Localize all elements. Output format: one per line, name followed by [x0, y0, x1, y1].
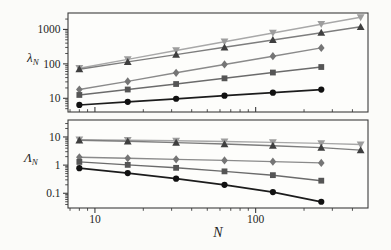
scaling-log-log-chart: 1010010000.111010100: [0, 0, 391, 250]
lambda-subscript: N: [33, 57, 39, 67]
square-marker: [222, 75, 228, 81]
circle-marker: [318, 199, 324, 205]
circle-marker: [318, 86, 324, 92]
circle-marker: [270, 189, 276, 195]
y-tick-label-top: 1000: [38, 23, 61, 35]
circle-marker: [221, 182, 227, 188]
figure: 1010010000.111010100 λN ΛN N: [0, 0, 391, 250]
y-tick-label-bottom: 1: [55, 159, 61, 171]
x-tick-label: 100: [247, 213, 265, 225]
circle-marker: [270, 90, 276, 96]
circle-marker: [173, 96, 179, 102]
circle-marker: [125, 99, 131, 105]
square-marker: [76, 92, 82, 98]
capital-lambda-symbol: Λ: [24, 150, 32, 165]
circle-marker: [76, 165, 82, 171]
bottom-y-axis-label: ΛN: [24, 151, 38, 167]
top-y-axis-label: λN: [27, 51, 39, 67]
y-tick-label-bottom: 10: [49, 131, 61, 143]
y-tick-label-bottom: 0.1: [46, 187, 61, 199]
square-marker: [125, 87, 131, 93]
x-axis-label: N: [68, 226, 368, 240]
y-tick-label-top: 10: [49, 92, 61, 104]
square-marker: [270, 172, 276, 178]
square-marker: [222, 168, 228, 174]
y-tick-label-top: 100: [43, 58, 61, 70]
circle-marker: [173, 176, 179, 182]
square-marker: [173, 81, 179, 87]
x-tick-label: 10: [89, 213, 101, 225]
square-marker: [270, 70, 276, 76]
circle-marker: [221, 93, 227, 99]
circle-marker: [76, 102, 82, 108]
square-marker: [173, 165, 179, 171]
square-marker: [318, 178, 324, 184]
square-marker: [318, 64, 324, 70]
square-marker: [125, 162, 131, 168]
capital-lambda-subscript: N: [32, 157, 38, 167]
circle-marker: [125, 170, 131, 176]
square-marker: [76, 159, 82, 165]
